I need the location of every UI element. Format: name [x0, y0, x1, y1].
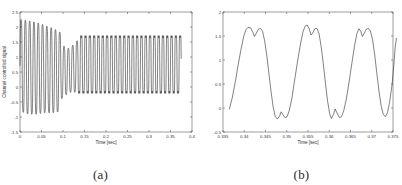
panel-b: 0.3350.340.3450.350.3550.360.3650.370.37… — [201, 0, 402, 185]
plot-a-data-line — [20, 20, 181, 115]
svg-text:0.35: 0.35 — [166, 134, 175, 139]
svg-text:0.4: 0.4 — [189, 134, 196, 139]
svg-text:0.355: 0.355 — [303, 134, 315, 139]
svg-text:0.35: 0.35 — [282, 134, 291, 139]
plot-a-y-axis-label: Channel controlled signal — [2, 46, 7, 98]
plot-b-x-axis-label: Time [sec] — [297, 140, 318, 145]
svg-text:0.5: 0.5 — [12, 70, 19, 75]
svg-text:0.365: 0.365 — [345, 134, 357, 139]
svg-text:0: 0 — [16, 85, 19, 90]
svg-text:2: 2 — [16, 25, 19, 30]
plot-a: 00.050.10.150.20.250.30.350.4-1.5-1-0.50… — [0, 0, 201, 160]
svg-text:-1: -1 — [14, 115, 18, 120]
svg-text:0.05: 0.05 — [37, 134, 46, 139]
svg-text:0: 0 — [219, 106, 222, 111]
svg-text:0.5: 0.5 — [215, 82, 222, 87]
svg-text:1.5: 1.5 — [12, 40, 19, 45]
plot-b-svg: 0.3350.340.3450.350.3550.360.3650.370.37… — [201, 0, 402, 160]
svg-text:0: 0 — [19, 134, 22, 139]
svg-text:0.25: 0.25 — [123, 134, 132, 139]
panel-a-caption: (a) — [0, 167, 201, 183]
panel-a: 00.050.10.150.20.250.30.350.4-1.5-1-0.50… — [0, 0, 201, 185]
svg-text:1.5: 1.5 — [215, 34, 222, 39]
svg-text:0.34: 0.34 — [240, 134, 249, 139]
svg-text:1: 1 — [219, 58, 222, 63]
plot-a-svg: 00.050.10.150.20.250.30.350.4-1.5-1-0.50… — [0, 0, 201, 160]
svg-text:0.2: 0.2 — [103, 134, 110, 139]
plot-b: 0.3350.340.3450.350.3550.360.3650.370.37… — [201, 0, 402, 160]
svg-text:0.36: 0.36 — [325, 134, 334, 139]
svg-text:0.37: 0.37 — [367, 134, 376, 139]
plot-b-ticks — [223, 12, 393, 132]
svg-text:-1.5: -1.5 — [11, 130, 19, 135]
plot-a-x-axis-label: Time [sec] — [95, 140, 116, 145]
svg-text:0.345: 0.345 — [260, 134, 272, 139]
svg-text:1: 1 — [16, 55, 19, 60]
plot-b-data-line — [229, 25, 396, 119]
svg-text:-0.5: -0.5 — [11, 100, 19, 105]
svg-text:0.15: 0.15 — [80, 134, 89, 139]
plot-b-frame — [223, 12, 393, 132]
figure-container: 00.050.10.150.20.250.30.350.4-1.5-1-0.50… — [0, 0, 402, 185]
svg-text:2: 2 — [219, 10, 222, 15]
svg-text:0.375: 0.375 — [388, 134, 400, 139]
svg-text:-0.5: -0.5 — [214, 130, 222, 135]
svg-text:2.5: 2.5 — [12, 10, 19, 15]
plot-a-tick-labels: 00.050.10.150.20.250.30.350.4-1.5-1-0.50… — [11, 10, 196, 139]
plot-b-tick-labels: 0.3350.340.3450.350.3550.360.3650.370.37… — [214, 10, 399, 139]
panel-b-caption: (b) — [201, 167, 402, 183]
svg-text:0.3: 0.3 — [146, 134, 153, 139]
svg-text:0.1: 0.1 — [60, 134, 67, 139]
